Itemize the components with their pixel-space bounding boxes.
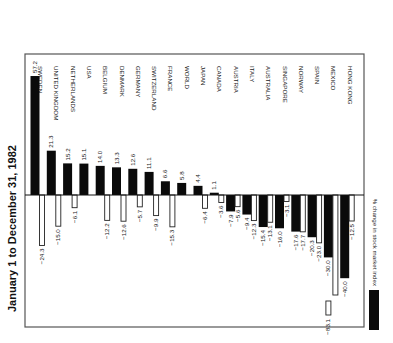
value-label-black: −20.3 [308, 240, 315, 256]
value-label-white: −6.4 [201, 211, 208, 224]
bar-stock-index [79, 164, 88, 195]
bar-group: SWEDEN57.2−24.3 [31, 60, 46, 264]
category-label: FRANCE [167, 66, 174, 91]
chart: January 1 to December 31, 1982 SWEDEN57.… [0, 0, 393, 343]
value-label-white: −12.2 [103, 223, 110, 239]
value-label-white: −6.1 [71, 210, 78, 223]
bar-group: SWITZERLAND11.1−9.9 [145, 66, 160, 231]
bar-group: HONG KONG−40.0−12.5 [340, 66, 355, 297]
value-label-black: 15.1 [80, 148, 87, 161]
value-label-white: −15.3 [168, 229, 175, 245]
value-label-black: 12.6 [129, 153, 136, 166]
value-label-black: 57.2 [31, 60, 38, 73]
value-label-black: −30.0 [324, 260, 331, 276]
bar-group: ITALY−9.4−12.3 [242, 66, 257, 239]
bar-secondary [317, 195, 322, 243]
bar-group: WORLD5.8 [177, 66, 191, 195]
value-label-black: 1.1 [210, 181, 217, 190]
legend: % change in stock market index [369, 199, 379, 330]
category-label: SWITZERLAND [151, 66, 158, 111]
category-label: SINGAPORE [282, 66, 289, 103]
value-label-black: 4.4 [194, 174, 201, 183]
category-label: AUSTRALIA [265, 66, 272, 101]
bar-secondary [40, 195, 45, 246]
bar-group: AUSTRIA−7.9−5.6 [226, 66, 241, 227]
bar-stock-index [31, 76, 40, 195]
chart-title-text: January 1 to December 31, 1982 [6, 145, 18, 312]
legend-label: % change in stock market index [372, 199, 379, 287]
bar-secondary [203, 195, 208, 208]
value-label-black: 5.8 [178, 171, 185, 180]
value-label-white: −5.6 [234, 209, 241, 222]
bar-stock-index [47, 151, 56, 195]
value-label-white: −9.9 [152, 218, 159, 231]
value-label-black: −16.0 [276, 231, 283, 247]
category-label: MEXICO [330, 66, 337, 91]
bar-stock-index [161, 181, 170, 195]
bar-stock-index [112, 167, 121, 195]
bar-secondary [105, 195, 110, 220]
bar-secondary [268, 195, 273, 222]
category-label: CANADA [216, 66, 223, 93]
value-label-white: −12.6 [120, 224, 127, 240]
category-label: HONG KONG [347, 66, 354, 105]
value-label-black: 6.6 [161, 169, 168, 178]
category-label: DENMARK [119, 66, 126, 98]
bar-secondary [56, 195, 61, 226]
bar-secondary [349, 195, 354, 221]
bar-stock-index [242, 195, 251, 215]
value-label-black: 21.3 [47, 135, 54, 148]
bar-stock-index [194, 186, 203, 195]
bar-secondary [284, 195, 289, 201]
bar-group: USA15.1 [79, 66, 93, 195]
value-label-black: −17.6 [292, 234, 299, 250]
category-label: BELGIUM [102, 66, 109, 94]
value-label-white: −3.1 [283, 204, 290, 217]
value-label-white: −23.0 [315, 245, 322, 261]
bar-secondary [251, 195, 256, 221]
category-label: WORLD [184, 66, 191, 90]
bar-stock-index [259, 195, 268, 227]
legend-swatch-black [369, 290, 379, 330]
category-label: USA [86, 66, 93, 80]
bar-group: SPAIN−20.3−23.0 [308, 66, 323, 261]
value-label-black: −9.4 [243, 217, 250, 230]
value-label-black: −7.9 [227, 214, 234, 227]
bar-stock-index [128, 169, 137, 195]
bar-stock-index [177, 183, 186, 195]
chart-title: January 1 to December 31, 1982 [6, 145, 18, 312]
value-label-white: −15.0 [54, 229, 61, 245]
bar-secondary [300, 195, 305, 232]
value-label-white: −17.7 [299, 234, 306, 250]
bar-stock-index [63, 163, 72, 195]
bar-stock-index [291, 195, 300, 232]
bar-group: SINGAPORE−16.0−3.1 [275, 66, 290, 247]
category-label: NORWAY [298, 66, 305, 93]
bar-stock-index [324, 195, 333, 257]
value-label-white: −83.1 [324, 318, 331, 334]
bar-stock-index [96, 166, 105, 195]
bar-secondary [219, 195, 224, 202]
bar-secondary [137, 195, 142, 207]
category-label: UNITED KINGDOM [53, 66, 60, 120]
category-label: GERMANY [135, 66, 142, 97]
bar-stock-index [226, 195, 235, 211]
bar-group: DENMARK13.3−12.6 [112, 66, 127, 240]
bar-group: FRANCE6.6−15.3 [161, 66, 176, 245]
bar-secondary [333, 195, 338, 295]
bar-stock-index [308, 195, 317, 237]
bar-secondary [121, 195, 126, 221]
value-label-white: −3.6 [217, 205, 224, 218]
bar-group: BELGIUM14.0−12.2 [96, 66, 111, 239]
bar-secondary [235, 195, 240, 207]
category-label: ITALY [249, 66, 256, 82]
value-label-black: 11.1 [145, 157, 152, 169]
bar-secondary [154, 195, 159, 216]
value-label-white: −13.1 [266, 225, 273, 241]
bar-secondary [170, 195, 175, 227]
value-label-white: −12.5 [348, 223, 355, 239]
bar-secondary-broken-end [326, 301, 331, 315]
category-label: SPAIN [314, 66, 321, 84]
bar-group: GERMANY12.6−5.7 [128, 66, 143, 222]
category-label: NETHERLANDS [70, 66, 77, 112]
